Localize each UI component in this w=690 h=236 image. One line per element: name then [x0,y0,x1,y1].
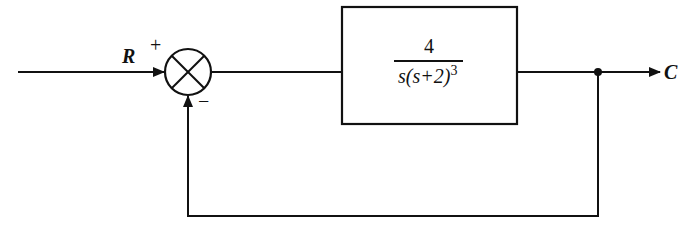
transfer-function-numerator: 4 [424,35,434,57]
denominator-exponent: 3 [450,63,457,78]
denominator-base: s(s+2) [398,65,451,88]
output-label: C [664,61,678,83]
plant-block: 4 s(s+2)3 [342,7,517,124]
plus-sign: + [150,34,161,56]
transfer-function-denominator: s(s+2)3 [398,63,457,88]
input-label: R [121,45,135,67]
summing-junction [165,49,211,95]
block-diagram: R + − 4 s(s+2)3 C [0,0,690,236]
minus-sign: − [198,90,209,112]
